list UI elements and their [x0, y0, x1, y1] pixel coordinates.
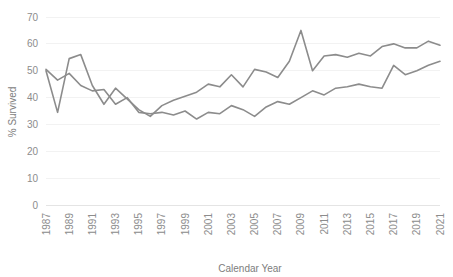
x-tick-label: 2003 [226, 213, 237, 236]
x-tick-label: 2021 [435, 213, 446, 236]
gridlines [46, 17, 440, 205]
y-tick-label: 10 [27, 173, 39, 184]
x-tick-label: 1997 [156, 213, 167, 236]
series-line-2 [46, 61, 440, 119]
x-tick-label: 2019 [411, 213, 422, 236]
x-tick-label: 2011 [319, 213, 330, 235]
x-tick-label: 2009 [295, 213, 306, 236]
x-tick-label: 1989 [64, 213, 75, 236]
y-tick-label: 20 [27, 146, 39, 157]
x-tick-label: 2013 [342, 213, 353, 236]
survival-line-chart: 010203040506070 198719891991199319951997… [0, 0, 453, 277]
x-tick-label: 1987 [41, 213, 52, 236]
x-tick-label: 1995 [133, 213, 144, 236]
y-axis-title: % Survived [7, 87, 18, 138]
y-tick-label: 0 [32, 200, 38, 211]
x-tick-label: 1993 [110, 213, 121, 236]
y-tick-label: 40 [27, 92, 39, 103]
x-tick-label: 2015 [365, 213, 376, 236]
x-tick-label: 1991 [87, 213, 98, 236]
y-tick-label: 60 [27, 38, 39, 49]
x-tick-label: 2001 [203, 213, 214, 236]
y-tick-label: 50 [27, 65, 39, 76]
x-tick-label: 2005 [249, 213, 260, 236]
y-tick-label: 70 [27, 12, 39, 23]
x-tick-label: 1999 [180, 213, 191, 236]
x-axis-tick-labels: 1987198919911993199519971999200120032005… [41, 213, 446, 236]
x-tick-label: 2017 [388, 213, 399, 236]
y-tick-label: 30 [27, 119, 39, 130]
x-axis-title: Calendar Year [218, 263, 282, 274]
series-line-1 [46, 30, 440, 116]
x-tick-label: 2007 [272, 213, 283, 236]
y-axis-tick-labels: 010203040506070 [27, 12, 39, 211]
chart-plot-area: 010203040506070 198719891991199319951997… [0, 0, 453, 277]
